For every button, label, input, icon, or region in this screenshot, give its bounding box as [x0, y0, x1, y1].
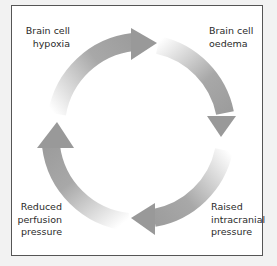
arrow-head [131, 28, 157, 60]
arrow-head [37, 122, 74, 148]
arrow-oedema-to-icp [158, 45, 236, 137]
arrow-shaft [158, 45, 225, 113]
node-label-brain-cell-oedema: Brain cell oedema [209, 25, 269, 50]
arrow-shaft [51, 146, 128, 222]
arrow-head [131, 203, 155, 235]
arrow-head [207, 116, 236, 137]
node-label-raised-intracranial-pressure: Raised intracranial pressure [211, 201, 271, 239]
arrow-shaft [57, 42, 133, 114]
node-label-reduced-perfusion-pressure: Reduced perfusion pressure [14, 201, 62, 239]
arrow-hypoxia-to-oedema [57, 28, 157, 114]
node-label-brain-cell-hypoxia: Brain cell hypoxia [20, 25, 70, 50]
